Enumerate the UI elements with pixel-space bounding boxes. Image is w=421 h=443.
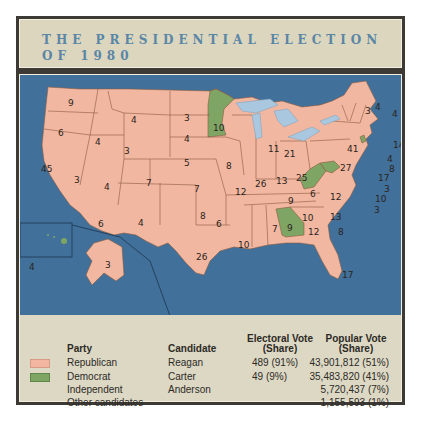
title-inner: THE PRESIDENTIAL ELECTION OF 1980 [19,19,402,68]
svg-text:12: 12 [235,187,246,197]
svg-text:10: 10 [238,240,250,250]
svg-text:8: 8 [338,227,344,237]
svg-text:9: 9 [68,98,74,108]
electoral-vote: 49 (9%) [252,371,287,382]
svg-text:3: 3 [184,113,190,123]
header-party: Party [67,344,92,354]
svg-text:41: 41 [347,144,358,154]
svg-text:7: 7 [272,224,278,234]
svg-text:13: 13 [330,212,341,222]
svg-text:6: 6 [58,128,64,138]
legend-panel: Party Candidate Electoral Vote (Share) P… [16,315,405,405]
svg-text:11: 11 [268,144,279,154]
candidate-name: Carter [168,371,196,382]
svg-text:45: 45 [41,164,52,174]
svg-text:3: 3 [365,106,371,116]
svg-text:5: 5 [184,158,190,168]
svg-text:3: 3 [74,175,80,185]
svg-text:27: 27 [340,163,351,173]
party-name: Other candidates [67,397,143,408]
svg-text:4: 4 [29,262,35,272]
svg-text:4: 4 [138,218,144,228]
party-name: Democrat [67,371,110,382]
us-election-map: 9645 434 346 743 457 82610 8126 101126 2… [20,75,401,315]
title-line-1: THE PRESIDENTIAL ELECTION [42,32,382,48]
map-area: 9645 434 346 743 457 82610 8126 101126 2… [19,74,402,315]
svg-text:8: 8 [200,211,206,221]
popular-vote: 1,155,593 (1%) [321,397,389,408]
svg-text:10: 10 [302,213,314,223]
svg-text:4: 4 [184,134,190,144]
svg-text:17: 17 [342,270,353,280]
svg-text:4: 4 [375,102,381,112]
header-candidate: Candidate [168,344,216,354]
party-name: Independent [67,384,123,395]
popular-vote: 43,901,812 (51%) [309,357,389,368]
svg-text:6: 6 [310,189,316,199]
popular-vote: 5,720,437 (7%) [321,384,389,395]
svg-text:3: 3 [374,205,380,215]
svg-text:4: 4 [131,115,137,125]
svg-text:7: 7 [194,184,200,194]
state-hawaii [61,238,67,244]
svg-text:6: 6 [98,219,104,229]
svg-text:7: 7 [146,178,152,188]
map-panel: 9645 434 346 743 457 82610 8126 101126 2… [16,71,405,315]
svg-text:25: 25 [296,173,307,183]
svg-text:3: 3 [384,184,390,194]
svg-text:8: 8 [226,161,232,171]
svg-text:4: 4 [95,137,101,147]
svg-text:4: 4 [104,182,110,192]
header-electoral: Electoral Vote (Share) [240,334,320,354]
svg-text:12: 12 [330,192,341,202]
candidate-name: Anderson [168,384,211,395]
svg-text:4: 4 [392,109,398,119]
legend-table: Party Candidate Electoral Vote (Share) P… [19,315,402,402]
svg-text:21: 21 [284,149,295,159]
svg-text:9: 9 [288,196,294,206]
democrat-swatch [30,373,50,382]
svg-text:3: 3 [124,146,130,156]
svg-text:17: 17 [378,173,389,183]
svg-text:26: 26 [196,252,208,262]
svg-text:12: 12 [308,227,319,237]
popular-vote: 35,483,820 (41%) [309,371,389,382]
title-line-2: OF 1980 [42,48,382,64]
svg-text:9: 9 [287,223,293,233]
svg-text:14: 14 [393,140,401,150]
map-title: THE PRESIDENTIAL ELECTION OF 1980 [42,32,382,64]
title-panel: THE PRESIDENTIAL ELECTION OF 1980 [16,16,405,71]
electoral-vote: 489 (91%) [252,357,298,368]
party-name: Republican [67,357,117,368]
svg-text:10: 10 [213,123,225,133]
svg-text:4: 4 [387,154,393,164]
svg-text:6: 6 [216,219,222,229]
candidate-name: Reagan [168,357,203,368]
svg-text:26: 26 [255,179,267,189]
svg-text:3: 3 [105,260,111,270]
svg-text:10: 10 [375,194,387,204]
svg-text:13: 13 [276,176,287,186]
svg-text:8: 8 [389,164,395,174]
republican-swatch [30,359,50,368]
header-popular: Popular Vote (Share) [316,334,396,354]
